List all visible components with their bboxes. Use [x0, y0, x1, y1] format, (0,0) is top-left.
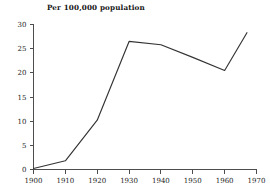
- data-series-line: [34, 33, 247, 169]
- x-tick-label: 1910: [56, 177, 74, 185]
- y-tick-label: 25: [18, 45, 27, 53]
- x-tick-label: 1900: [25, 177, 43, 185]
- y-tick-label: 15: [18, 94, 27, 102]
- x-tick-label: 1930: [120, 177, 138, 185]
- y-tick-label: 10: [18, 118, 27, 126]
- y-tick-label: 20: [18, 69, 27, 77]
- x-tick-label: 1970: [248, 177, 266, 185]
- x-axis-ticks: 19001910192019301940195019601970: [25, 170, 266, 185]
- x-tick-label: 1940: [152, 177, 170, 185]
- line-chart-plot: 051015202530 190019101920193019401950196…: [0, 0, 270, 192]
- y-tick-label: 30: [18, 21, 27, 29]
- x-tick-label: 1920: [88, 177, 106, 185]
- x-tick-label: 1960: [216, 177, 234, 185]
- y-tick-label: 0: [22, 166, 26, 174]
- y-axis-ticks: 051015202530: [18, 21, 34, 174]
- chart-figure: Per 100,000 population 051015202530 1900…: [0, 0, 270, 192]
- x-tick-label: 1950: [184, 177, 202, 185]
- y-tick-label: 5: [22, 142, 26, 150]
